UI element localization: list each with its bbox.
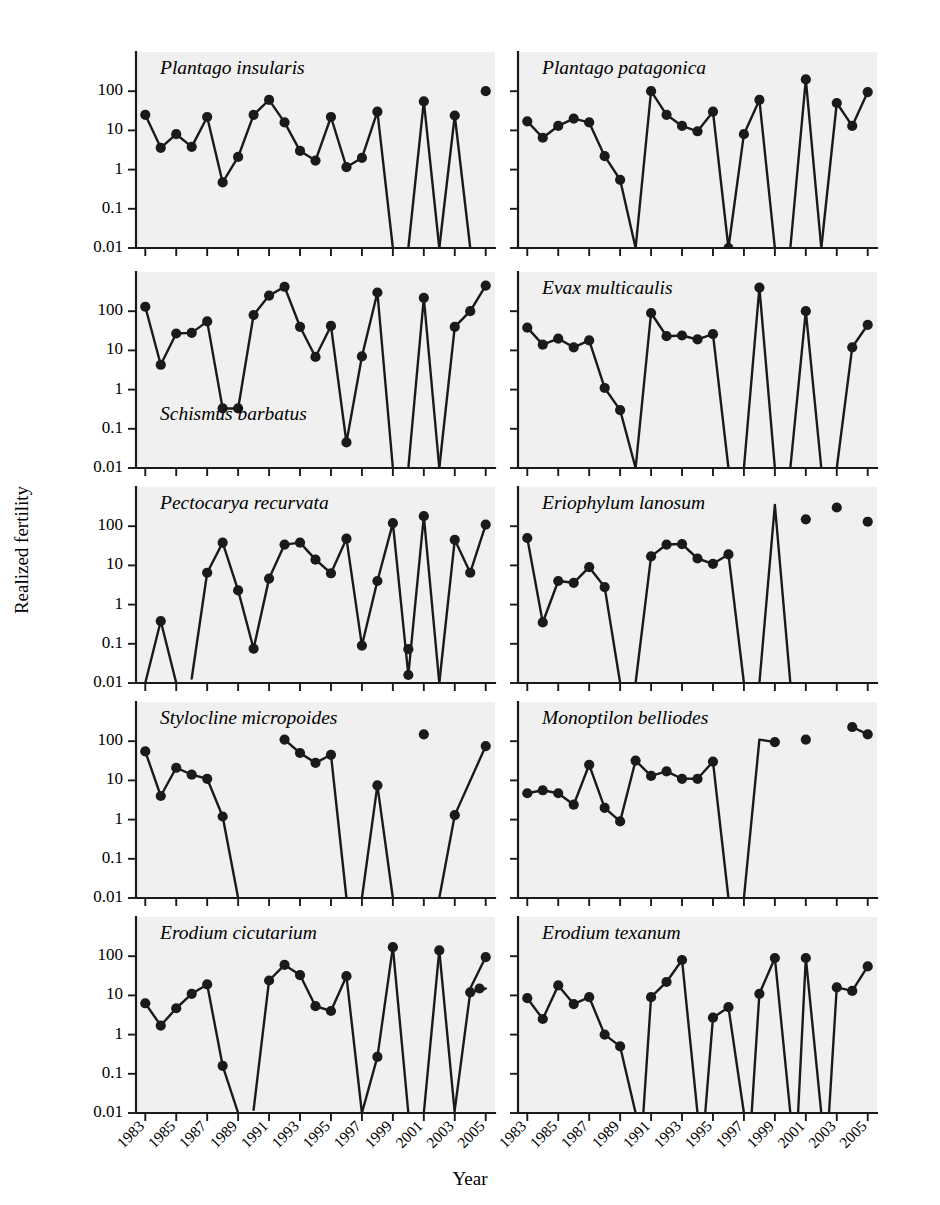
- data-point: [661, 539, 671, 549]
- data-point: [553, 334, 563, 344]
- panel-title: Plantago patagonica: [541, 57, 706, 78]
- data-point: [372, 576, 382, 586]
- data-point: [233, 152, 243, 162]
- data-point: [708, 329, 718, 339]
- data-point: [538, 617, 548, 627]
- x-tick-label: 1995: [299, 1117, 333, 1151]
- panel-background: [518, 917, 877, 1113]
- data-point: [295, 322, 305, 332]
- data-point: [600, 383, 610, 393]
- data-point: [801, 306, 811, 316]
- data-point: [249, 644, 259, 654]
- x-tick-label: 2001: [392, 1117, 426, 1151]
- data-point: [863, 320, 873, 330]
- data-point: [357, 640, 367, 650]
- data-point: [661, 331, 671, 341]
- x-tick-label: 1987: [175, 1117, 209, 1151]
- data-point: [450, 535, 460, 545]
- data-point: [739, 129, 749, 139]
- data-point-isolated: [832, 502, 842, 512]
- data-point: [481, 519, 491, 529]
- x-tick-label: 1987: [557, 1117, 591, 1151]
- data-point: [450, 110, 460, 120]
- data-point: [156, 616, 166, 626]
- data-point: [310, 555, 320, 565]
- y-tick-label: 0.1: [102, 1063, 123, 1082]
- data-point: [264, 95, 274, 105]
- data-point: [522, 533, 532, 543]
- x-tick-label: 1999: [361, 1117, 395, 1151]
- data-point: [847, 986, 857, 996]
- data-point: [202, 979, 212, 989]
- y-tick-label: 0.01: [93, 672, 123, 691]
- y-tick-label: 1: [115, 809, 124, 828]
- data-point: [474, 983, 484, 993]
- data-point: [372, 780, 382, 790]
- data-point: [264, 291, 274, 301]
- panel-schismus-barbatus: 1001010.10.01Schismus barbatus: [93, 272, 495, 476]
- data-point: [403, 644, 413, 654]
- data-point: [310, 758, 320, 768]
- x-tick-label: 2003: [423, 1117, 457, 1151]
- data-point: [661, 110, 671, 120]
- data-point: [646, 308, 656, 318]
- data-point: [646, 86, 656, 96]
- panel-background: [136, 272, 495, 468]
- data-point: [832, 982, 842, 992]
- x-tick-label: 2005: [836, 1117, 870, 1151]
- panel-title: Erodium texanum: [541, 922, 680, 943]
- y-tick-label: 10: [106, 339, 123, 358]
- panel-background: [136, 487, 495, 683]
- panel-title: Schismus barbatus: [160, 403, 307, 424]
- data-point: [584, 335, 594, 345]
- x-tick-label: 1989: [206, 1117, 240, 1151]
- x-tick-label: 1997: [330, 1117, 364, 1151]
- panel-title: Eriophylum lanosum: [541, 492, 705, 513]
- data-point: [600, 1030, 610, 1040]
- data-point: [600, 803, 610, 813]
- data-point: [754, 283, 764, 293]
- x-tick-label: 1991: [619, 1117, 653, 1151]
- data-point: [341, 971, 351, 981]
- data-point: [295, 970, 305, 980]
- panel-title: Erodium cicutarium: [159, 922, 317, 943]
- data-point: [646, 992, 656, 1002]
- data-point: [187, 142, 197, 152]
- data-point: [708, 107, 718, 117]
- data-point: [481, 280, 491, 290]
- data-point: [801, 74, 811, 84]
- data-point: [465, 987, 475, 997]
- x-tick-label: 2001: [774, 1117, 808, 1151]
- data-point: [140, 998, 150, 1008]
- data-point: [372, 1052, 382, 1062]
- data-point: [450, 322, 460, 332]
- data-point: [279, 539, 289, 549]
- data-point: [357, 351, 367, 361]
- y-tick-label: 10: [106, 984, 123, 1003]
- data-point: [677, 121, 687, 131]
- panel-background: [518, 52, 877, 248]
- data-point: [279, 117, 289, 127]
- y-tick-label: 100: [98, 515, 124, 534]
- x-tick-label: 1993: [268, 1117, 302, 1151]
- y-tick-label: 1: [115, 159, 124, 178]
- data-point: [450, 810, 460, 820]
- panel-monoptilon-belliodes: Monoptilon belliodes: [510, 702, 877, 906]
- data-point: [677, 955, 687, 965]
- y-tick-label: 1: [115, 1024, 124, 1043]
- data-point: [522, 993, 532, 1003]
- data-point: [140, 746, 150, 756]
- data-point: [584, 760, 594, 770]
- data-point: [465, 306, 475, 316]
- data-point: [372, 107, 382, 117]
- data-point: [847, 342, 857, 352]
- data-point: [481, 86, 491, 96]
- panel-title: Monoptilon belliodes: [541, 707, 708, 728]
- x-tick-label: 1985: [526, 1117, 560, 1151]
- y-tick-label: 0.01: [93, 457, 123, 476]
- figure-root: Realized fertility 1001010.10.01Plantago…: [0, 0, 940, 1205]
- data-point: [295, 748, 305, 758]
- data-point: [569, 578, 579, 588]
- data-point: [708, 757, 718, 767]
- data-point: [723, 549, 733, 559]
